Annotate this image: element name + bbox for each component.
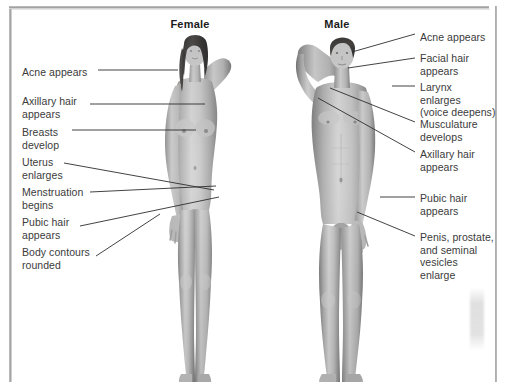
label-male-larynx: Larynx enlarges (voice deepens) [420,81,495,119]
label-female-pubic-hair: Pubic hair appears [22,216,69,241]
page-frame-right [495,6,497,382]
label-male-pubic-hair: Pubic hair appears [420,192,467,217]
page-edge-smudge [470,288,484,350]
label-female-uterus: Uterus enlarges [22,156,63,181]
page-frame-left [9,6,12,382]
label-male-acne: Acne appears [420,31,485,44]
label-female-menstruation: Menstruation begins [22,186,83,211]
column-heading-female: Female [150,18,230,30]
label-male-musculature: Musculature develops [420,118,478,143]
diagram-page: Female Male Acne appears Axillary hair a… [0,0,511,382]
label-female-axillary-hair: Axillary hair appears [22,95,77,120]
page-frame-inner-top [12,9,490,10]
label-female-acne: Acne appears [22,66,87,79]
label-female-breasts: Breasts develop [22,126,59,151]
column-heading-male: Male [297,18,377,30]
label-male-axillary-hair: Axillary hair appears [420,148,475,173]
label-male-facial-hair: Facial hair appears [420,52,469,77]
male-body-illustration [288,22,394,382]
label-female-body-contours: Body contours rounded [22,246,90,271]
female-body-illustration [148,24,242,382]
label-male-genitals: Penis, prostate, and seminal vesicles en… [420,231,494,281]
